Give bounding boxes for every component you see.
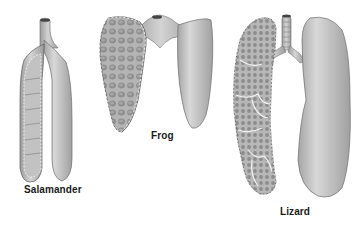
frog-label: Frog xyxy=(151,130,174,141)
frog-lungs xyxy=(100,15,213,132)
salamander-lungs xyxy=(20,18,72,182)
lizard-lungs xyxy=(234,14,351,197)
lizard-label: Lizard xyxy=(280,206,310,217)
salamander-label: Salamander xyxy=(24,184,82,195)
lung-comparison-figure: Salamander Frog Lizard xyxy=(0,0,362,227)
